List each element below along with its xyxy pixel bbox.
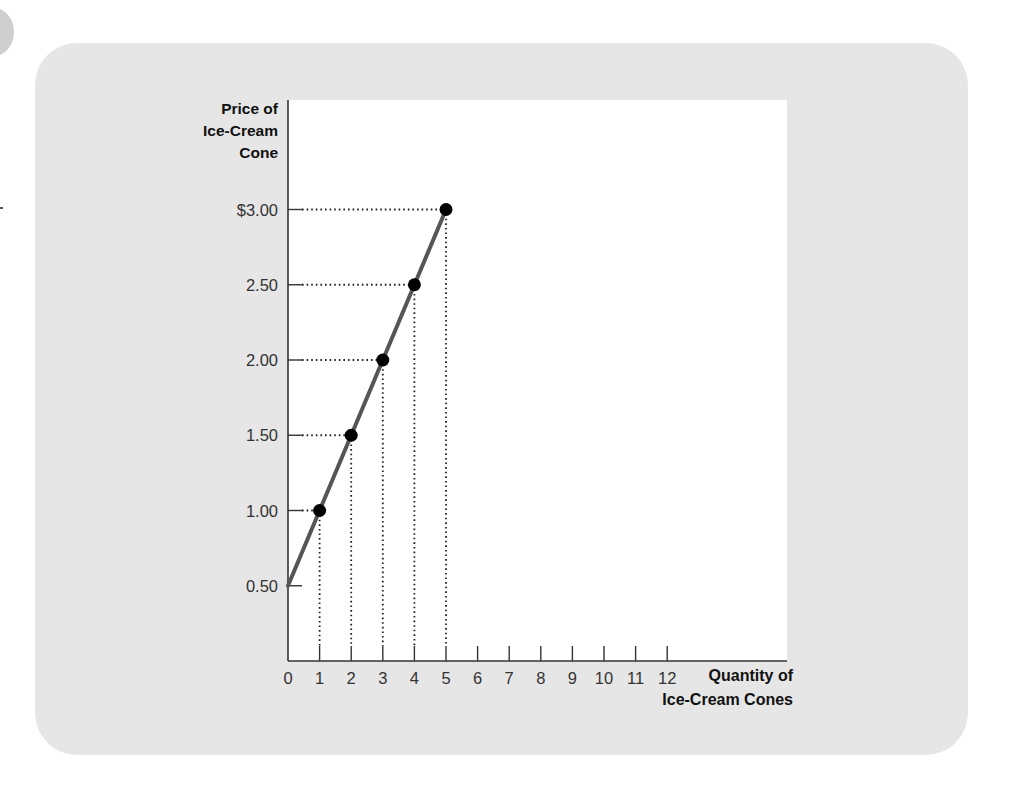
x-tick-label: 2 bbox=[347, 669, 356, 687]
data-point bbox=[440, 203, 453, 216]
x-tick-label: 6 bbox=[473, 669, 482, 687]
x-axis-title-line: Ice-Cream Cones bbox=[662, 688, 793, 712]
x-tick-label: 3 bbox=[378, 669, 387, 687]
y-tick-label: 1.00 bbox=[246, 502, 278, 520]
x-axis-title: Quantity of Ice-Cream Cones bbox=[662, 664, 793, 712]
x-tick-label: 0 bbox=[283, 669, 292, 687]
x-tick-label: 1 bbox=[315, 669, 324, 687]
x-tick-label: 5 bbox=[441, 669, 450, 687]
x-tick-label: 4 bbox=[410, 669, 419, 687]
data-point bbox=[376, 354, 389, 367]
x-tick-label: 8 bbox=[536, 669, 545, 687]
y-tick-label: $3.00 bbox=[237, 201, 278, 219]
x-axis-title-line: Quantity of bbox=[662, 664, 793, 688]
data-point bbox=[408, 278, 421, 291]
y-tick-label: 2.50 bbox=[246, 276, 278, 294]
y-axis-title-line: Price of bbox=[203, 98, 278, 120]
supply-chart: 01234567891011120.501.001.502.002.50$3.0… bbox=[0, 0, 1010, 795]
y-tick-label: 0.50 bbox=[246, 577, 278, 595]
y-axis-title-line: Cone bbox=[203, 142, 278, 164]
y-axis-title: Price of Ice-Cream Cone bbox=[203, 98, 278, 164]
y-axis-title-line: Ice-Cream bbox=[203, 120, 278, 142]
x-tick-label: 9 bbox=[568, 669, 577, 687]
y-tick-label: 2.00 bbox=[246, 351, 278, 369]
y-tick-label: 1.50 bbox=[246, 426, 278, 444]
plot-area bbox=[288, 100, 787, 661]
x-tick-label: 7 bbox=[505, 669, 514, 687]
data-point bbox=[345, 429, 358, 442]
x-tick-label: 11 bbox=[627, 669, 644, 687]
x-tick-label: 10 bbox=[595, 669, 613, 687]
data-point bbox=[313, 504, 326, 517]
